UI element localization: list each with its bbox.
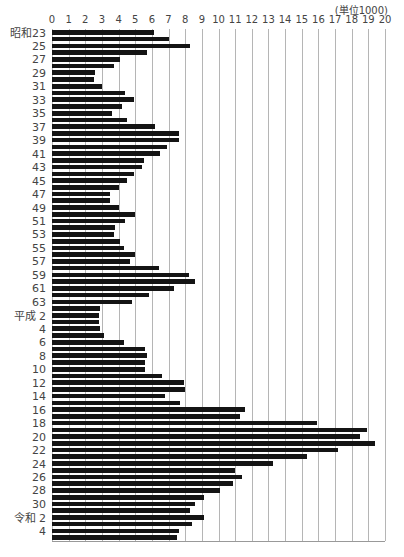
- bar: [52, 212, 135, 217]
- y-tick-label: 平成 2: [14, 307, 47, 323]
- y-tick-label: 14: [32, 390, 46, 403]
- bar: [52, 306, 100, 311]
- y-tick-label: 6: [39, 336, 46, 349]
- y-tick-label: 8: [39, 349, 46, 362]
- y-tick-label: 49: [32, 201, 46, 214]
- bar: [52, 104, 122, 109]
- bar: [52, 360, 145, 365]
- y-tick-label: 20: [32, 430, 46, 443]
- x-axis-ticks: 01234567891011121314151617181920: [0, 14, 404, 28]
- x-tick-label: 20: [379, 14, 392, 25]
- bar: [52, 407, 245, 412]
- bar: [52, 421, 317, 426]
- y-tick-label: 33: [32, 93, 46, 106]
- gridline: [302, 29, 303, 541]
- bar: [52, 165, 142, 170]
- bar: [52, 468, 235, 473]
- x-tick-label: 1: [65, 14, 71, 25]
- y-tick-label: 53: [32, 228, 46, 241]
- bar: [52, 454, 307, 459]
- bar: [52, 246, 124, 251]
- y-tick-label: 22: [32, 444, 46, 457]
- y-tick-label: 16: [32, 403, 46, 416]
- x-tick-label: 11: [229, 14, 242, 25]
- bar: [52, 219, 125, 224]
- bar: [52, 481, 233, 486]
- bar: [52, 252, 135, 257]
- bar: [52, 434, 360, 439]
- y-tick-label: 31: [32, 80, 46, 93]
- y-tick-label: 昭和23: [10, 24, 46, 40]
- bar: [52, 118, 127, 123]
- bar: [52, 461, 273, 466]
- bar: [52, 111, 112, 116]
- bar: [52, 522, 192, 527]
- bar: [52, 340, 124, 345]
- gridline: [318, 29, 319, 541]
- bar: [52, 138, 179, 143]
- bar: [52, 495, 204, 500]
- y-tick-label: 45: [32, 174, 46, 187]
- bar: [52, 279, 195, 284]
- bar: [52, 266, 159, 271]
- x-tick-label: 9: [199, 14, 205, 25]
- bar: [52, 441, 375, 446]
- y-tick-label: 4: [39, 524, 46, 537]
- bar: [52, 91, 125, 96]
- bar: [52, 259, 130, 264]
- bar: [52, 448, 338, 453]
- bar: [52, 64, 114, 69]
- y-tick-label: 61: [32, 282, 46, 295]
- y-tick-label: 37: [32, 120, 46, 133]
- y-tick-label: 57: [32, 255, 46, 268]
- bar: [52, 300, 132, 305]
- bar: [52, 535, 177, 540]
- bar: [52, 172, 134, 177]
- y-tick-label: 59: [32, 268, 46, 281]
- bar: [52, 286, 174, 291]
- bar: [52, 131, 179, 136]
- bar: [52, 475, 242, 480]
- gridline: [335, 29, 336, 541]
- bar: [52, 387, 185, 392]
- y-tick-label: 12: [32, 376, 46, 389]
- bar: [52, 198, 110, 203]
- x-tick-label: 5: [132, 14, 138, 25]
- bar: [52, 192, 110, 197]
- bar: [52, 232, 114, 237]
- bar: [52, 394, 165, 399]
- x-tick-label: 13: [262, 14, 275, 25]
- y-tick-label: 51: [32, 215, 46, 228]
- bar: [52, 70, 95, 75]
- bar: [52, 333, 104, 338]
- bar: [52, 529, 179, 534]
- x-tick-label: 14: [279, 14, 292, 25]
- bar: [52, 145, 167, 150]
- y-tick-label: 10: [32, 363, 46, 376]
- y-tick-label: 令和 2: [14, 509, 47, 525]
- y-tick-label: 26: [32, 471, 46, 484]
- bar: [52, 273, 189, 278]
- gridline: [352, 29, 353, 541]
- bar: [52, 293, 149, 298]
- bar: [52, 401, 180, 406]
- bar: [52, 353, 147, 358]
- bar: [52, 178, 127, 183]
- bar: [52, 515, 204, 520]
- bar: [52, 124, 155, 129]
- x-tick-label: 17: [329, 14, 342, 25]
- bar: [52, 225, 115, 230]
- gridline: [385, 29, 386, 541]
- y-tick-label: 29: [32, 66, 46, 79]
- x-tick-label: 16: [312, 14, 325, 25]
- y-tick-label: 18: [32, 417, 46, 430]
- y-tick-label: 27: [32, 53, 46, 66]
- bar: [52, 313, 99, 318]
- x-tick-label: 2: [82, 14, 88, 25]
- x-tick-label: 12: [245, 14, 258, 25]
- y-tick-label: 41: [32, 147, 46, 160]
- x-tick-label: 19: [362, 14, 375, 25]
- bar: [52, 97, 134, 102]
- bar: [52, 508, 190, 513]
- x-tick-label: 8: [182, 14, 188, 25]
